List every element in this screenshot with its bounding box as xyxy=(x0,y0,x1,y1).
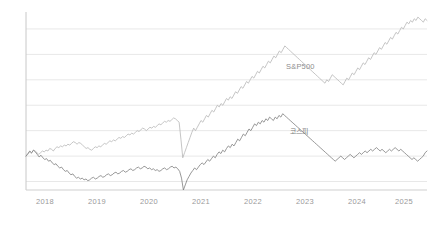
x-tick-label-2024: 2024 xyxy=(348,197,366,207)
x-tick-label-2022: 2022 xyxy=(244,197,262,207)
x-tick-label-2023: 2023 xyxy=(296,197,314,207)
stock-index-comparison-chart: 20182019202020212022202320242025 S&P500코… xyxy=(0,0,433,227)
series-lines xyxy=(26,17,427,190)
gridlines xyxy=(26,29,427,182)
series-label-kospi: 코스피 xyxy=(290,127,309,137)
x-tick-label-2020: 2020 xyxy=(140,197,158,207)
x-tick-label-2018: 2018 xyxy=(36,197,54,207)
series-line-sp500 xyxy=(26,17,427,158)
x-tick-label-2019: 2019 xyxy=(88,197,106,207)
series-line-kospi xyxy=(26,114,427,190)
series-label-sp500: S&P500 xyxy=(286,62,315,72)
chart-plot-area xyxy=(0,0,433,227)
x-tick-label-2021: 2021 xyxy=(192,197,210,207)
x-tick-label-2025: 2025 xyxy=(395,197,413,207)
